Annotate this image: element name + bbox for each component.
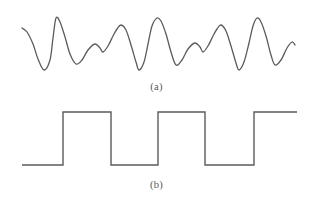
panel-a-caption: (a) [0,82,313,93]
analog-signal-trace [22,17,295,70]
digital-signal-trace [22,112,297,165]
panel-b-caption: (b) [0,180,313,191]
figure-root: (a) (b) [0,0,313,202]
